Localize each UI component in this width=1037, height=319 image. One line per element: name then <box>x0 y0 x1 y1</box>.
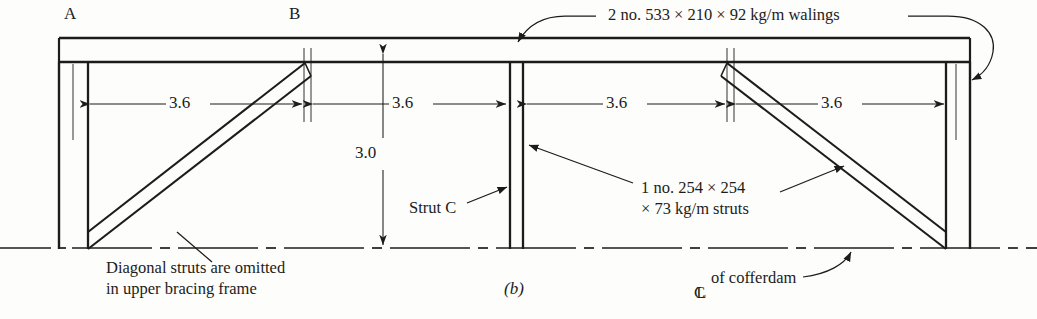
strut-c-label: Strut C <box>409 198 456 218</box>
strut-leader-left <box>529 145 633 183</box>
diagonal-note-line-1: Diagonal struts are omitted <box>106 258 285 278</box>
dimension-span-1-value: 3.6 <box>169 93 190 114</box>
strut-leader-right <box>780 166 844 192</box>
diagonal-note-line-2: in upper bracing frame <box>106 279 257 299</box>
centreline-label-text: of cofferdam <box>707 268 797 287</box>
dimension-height-value: 3.0 <box>355 143 376 164</box>
centreline-leader <box>803 252 851 277</box>
walings-annotation: 2 no. 533 × 210 × 92 kg/m walings <box>608 5 840 25</box>
dimension-span-3-value: 3.6 <box>606 93 627 114</box>
strut-c-leader <box>467 187 507 203</box>
figure-label: (b) <box>504 279 524 300</box>
dimension-span-4-value: 3.6 <box>821 93 842 114</box>
corner-label-a: A <box>64 4 76 25</box>
centreline-symbol-l: L <box>696 283 706 303</box>
centreline-label: CL of cofferdam <box>694 268 796 288</box>
dimension-span-2-value: 3.6 <box>392 93 413 114</box>
struts-annotation-line-2: × 73 kg/m struts <box>641 199 749 219</box>
right-diagonal-strut <box>721 63 946 249</box>
struts-annotation-line-1: 1 no. 254 × 254 <box>641 178 745 198</box>
waling-leader-right <box>908 16 993 80</box>
cofferdam-bracing-figure: A B 3.6 3.6 3.6 3.6 3.0 2 no. 533 × 210 … <box>0 0 1037 319</box>
waling-beam <box>59 38 970 62</box>
left-diagonal-strut <box>88 63 311 249</box>
corner-label-b: B <box>289 4 300 25</box>
